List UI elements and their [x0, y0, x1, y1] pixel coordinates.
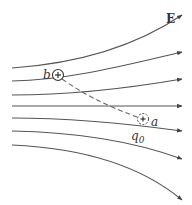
label-field-e: E: [166, 12, 175, 26]
field-line-7: [12, 145, 182, 200]
displacement-path: [62, 79, 137, 117]
electric-field-diagram: b a q0 E: [0, 0, 192, 205]
label-q0: q0: [131, 129, 145, 145]
charge-b: b: [43, 68, 64, 82]
field-line-3: [12, 79, 182, 95]
field-line-6: [12, 131, 182, 159]
field-lines: [12, 15, 182, 200]
field-line-2: [12, 52, 182, 81]
label-a: a: [151, 115, 158, 129]
field-line-1: [12, 15, 182, 68]
label-b: b: [43, 68, 51, 82]
label-q-subscript: 0: [139, 135, 145, 145]
